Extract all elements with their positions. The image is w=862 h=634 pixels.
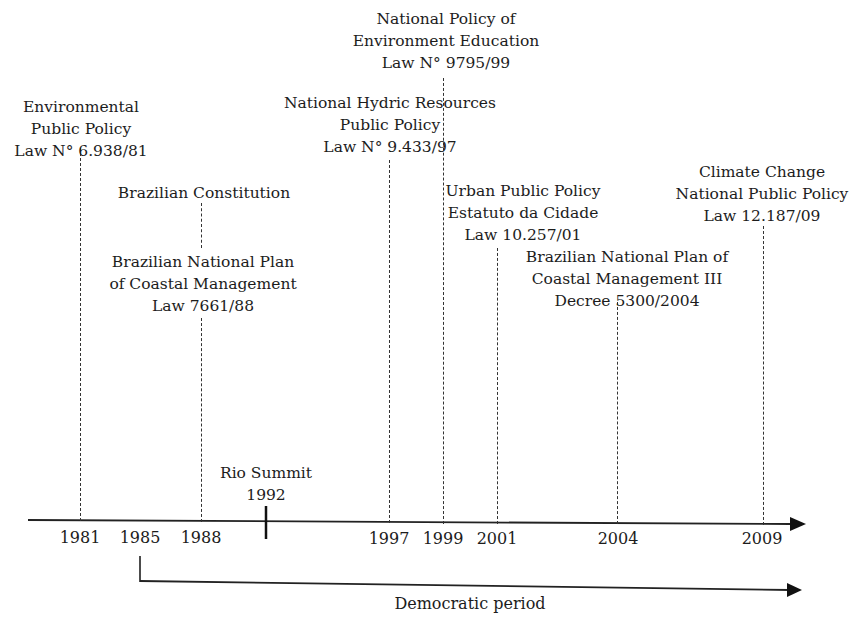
- connector-1981: [80, 148, 81, 521]
- year-label: 1981: [60, 528, 101, 547]
- year-label: 2009: [742, 529, 783, 548]
- event-env-education: National Policy of Environment Education…: [353, 8, 539, 74]
- connector-2009: [763, 226, 764, 525]
- year-label: 1999: [423, 529, 464, 548]
- event-urban: Urban Public Policy Estatuto da Cidade L…: [446, 180, 601, 246]
- axis-arrowhead-icon: [790, 517, 806, 531]
- event-coastal-plan: Brazilian National Plan of Coastal Manag…: [109, 251, 296, 317]
- period-label: Democratic period: [394, 594, 545, 613]
- event-hydric: National Hydric Resources Public Policy …: [284, 92, 496, 158]
- year-label: 2004: [598, 529, 639, 548]
- connector-1997: [389, 160, 390, 523]
- event-constitution: Brazilian Constitution: [118, 182, 290, 204]
- connector-2001: [497, 248, 498, 524]
- year-label: 1985: [120, 528, 161, 547]
- event-rio-summit: Rio Summit 1992: [220, 462, 312, 506]
- connector-1988-top: [201, 203, 202, 248]
- timeline-axis: [28, 520, 790, 524]
- event-climate: Climate Change National Public Policy La…: [676, 161, 849, 227]
- connector-2004: [617, 302, 618, 524]
- period-arrow-line: [140, 581, 790, 590]
- year-label: 1988: [181, 528, 222, 547]
- period-arrowhead-icon: [787, 583, 802, 597]
- connector-1988: [201, 318, 202, 522]
- year-label: 1997: [369, 529, 410, 548]
- event-env-policy: Environmental Public Policy Law N° 6.938…: [14, 96, 147, 162]
- event-coastal-plan-3: Brazilian National Plan of Coastal Manag…: [526, 246, 728, 312]
- year-label: 2001: [477, 529, 518, 548]
